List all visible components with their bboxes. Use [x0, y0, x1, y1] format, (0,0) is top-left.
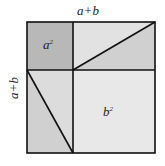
- top-label: a+b: [77, 3, 99, 18]
- b-squared-region: [73, 70, 155, 153]
- a-squared-region: [27, 22, 73, 70]
- pythagorean-square-diagram: a+b a+b a2 b2: [0, 0, 165, 166]
- side-label: a+b: [6, 77, 21, 99]
